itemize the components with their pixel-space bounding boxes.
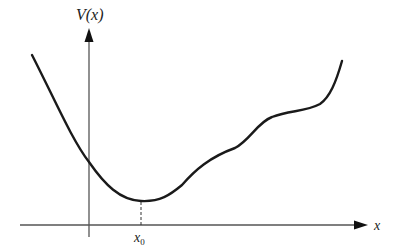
minimum-label: x0 [133,230,145,247]
potential-curve [32,55,342,201]
x-axis-arrowhead-icon [354,221,368,230]
potential-diagram: V(x) x x0 [0,0,398,248]
x-axis-label: x [373,218,381,233]
y-axis-label: V(x) [76,6,104,24]
y-axis-arrowhead-icon [85,28,94,42]
minimum-label-subscript: 0 [140,237,145,247]
